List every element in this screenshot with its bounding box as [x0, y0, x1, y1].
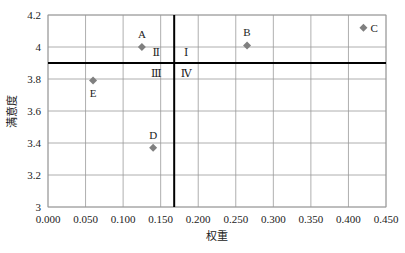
x-tick-label: 0.100 — [111, 213, 136, 225]
diamond-marker-d — [149, 144, 157, 152]
quadrant-label: Ⅱ — [152, 46, 159, 58]
y-axis-title: 满意度 — [5, 95, 19, 128]
diamond-marker-b — [243, 41, 251, 49]
quadrant-label: Ⅲ — [151, 67, 162, 79]
point-label: C — [370, 22, 377, 34]
x-axis-ticks: 0.0000.0500.1000.1500.2000.2500.3000.350… — [36, 213, 399, 225]
x-tick-label: 0.200 — [186, 213, 211, 225]
x-tick-label: 0.400 — [336, 213, 361, 225]
x-tick-label: 0.450 — [374, 213, 399, 225]
x-tick-label: 0.150 — [148, 213, 173, 225]
y-tick-label: 3.6 — [27, 105, 41, 117]
x-tick-label: 0.050 — [73, 213, 98, 225]
diamond-marker-e — [89, 77, 97, 85]
y-tick-label: 3.8 — [27, 73, 41, 85]
y-tick-label: 3.4 — [27, 137, 41, 149]
x-tick-label: 0.300 — [261, 213, 286, 225]
y-tick-label: 4 — [36, 41, 42, 53]
quadrant-label: Ⅰ — [184, 46, 188, 58]
point-label: D — [149, 129, 157, 141]
y-tick-label: 4.2 — [27, 9, 41, 21]
y-tick-label: 3 — [36, 201, 42, 213]
x-tick-label: 0.250 — [223, 213, 248, 225]
point-label: A — [138, 28, 146, 40]
grid-lines — [48, 15, 386, 207]
y-axis-ticks: 33.23.43.63.844.2 — [27, 9, 41, 213]
point-label: E — [90, 87, 97, 99]
quadrant-label: Ⅳ — [181, 67, 193, 79]
diamond-marker-c — [359, 24, 367, 32]
x-axis-title: 权重 — [206, 229, 228, 243]
scatter-chart: 0.0000.0500.1000.1500.2000.2500.3000.350… — [0, 0, 405, 253]
data-points: ABCDE — [89, 22, 378, 152]
y-tick-label: 3.2 — [27, 169, 41, 181]
x-tick-label: 0.350 — [299, 213, 324, 225]
x-tick-label: 0.000 — [36, 213, 61, 225]
point-label: B — [243, 26, 250, 38]
diamond-marker-a — [138, 43, 146, 51]
